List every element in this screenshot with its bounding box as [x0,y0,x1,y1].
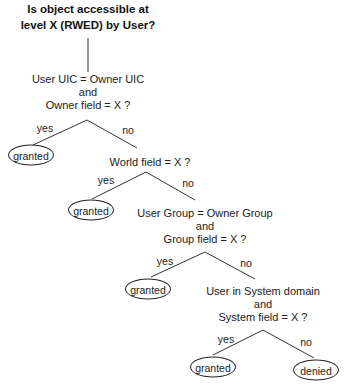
q3-no-label: no [240,257,252,269]
q4-condition-line-3: System field = X ? [219,311,308,324]
q1-yes-label: yes [37,122,53,134]
connector-lines [0,0,350,387]
diagram-heading-line-1: Is object accessible at [27,1,148,17]
q2-no-label: no [182,177,194,189]
q4-condition-line-2: and [254,298,272,311]
access-decision-diagram: Is object accessible at level X (RWED) b… [0,0,350,387]
q4-yes-label: yes [218,333,234,345]
q3-granted-outcome: granted [125,279,171,300]
q3-yes-label: yes [157,255,173,267]
q3-condition-line-1: User Group = Owner Group [137,207,272,220]
q3-condition-line-3: Group field = X ? [164,233,247,246]
q2-condition-line-1: World field = X ? [110,156,191,169]
q1-condition-line-1: User UIC = Owner UIC [32,73,144,86]
q4-no-label: no [300,336,312,348]
q2-yes-label: yes [98,174,114,186]
q1-condition-line-3: Owner field = X ? [46,99,131,112]
q3-condition-line-2: and [196,220,214,233]
diagram-heading-line-2: level X (RWED) by User? [21,17,156,33]
q4-condition-line-1: User in System domain [206,285,320,298]
q1-granted-outcome: granted [8,145,54,166]
q1-no-label: no [122,124,134,136]
q4-denied-outcome: denied [293,360,339,381]
q2-granted-outcome: granted [68,200,114,221]
q4-granted-outcome: granted [190,357,236,378]
q1-condition-line-2: and [79,86,97,99]
